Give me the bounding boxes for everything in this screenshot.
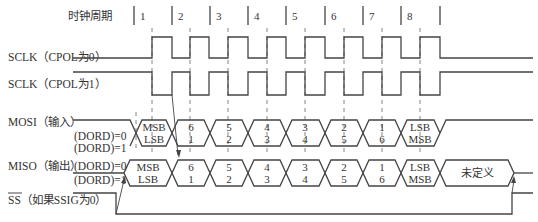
cycle-number: 3 — [216, 10, 222, 22]
mosi-cell-top: 4 — [264, 121, 270, 133]
miso-cell-top: 5 — [226, 161, 232, 173]
sclk-cpol0-label: SCLK（CPOL为0） — [8, 51, 106, 63]
spi-timing-diagram: 时钟周期 1 2 3 4 5 6 7 8 SCLK（CPOL为0） SCLK（C… — [0, 0, 538, 222]
mosi-cell-bottom: 6 — [379, 133, 385, 145]
mosi-cell-top: 3 — [302, 121, 308, 133]
cycle-markers: 1 2 3 4 5 6 7 8 — [134, 6, 440, 25]
cycle-number: 8 — [407, 10, 413, 22]
mosi-cell-bottom: 5 — [341, 133, 347, 145]
ss-waveform — [73, 193, 533, 214]
mosi-cell-bottom: 1 — [188, 133, 194, 145]
mosi-cell-bottom: 3 — [264, 133, 270, 145]
miso-cell-top: 4 — [264, 161, 270, 173]
miso-cell-bottom: 1 — [188, 173, 194, 185]
ss-condition-text: （如果SSIG为0） — [21, 193, 107, 206]
sclk-cpol1-label: SCLK（CPOL为1） — [8, 78, 106, 90]
mosi-cell-top: 5 — [226, 121, 232, 133]
ss-overbar-text: SS — [8, 194, 21, 206]
cycle-number: 4 — [254, 10, 260, 22]
mosi-cell-top: MSB — [142, 121, 165, 133]
arrow-head-icon — [176, 150, 181, 158]
mosi-cell-bottom: 2 — [226, 133, 232, 145]
miso-cell-bottom: 2 — [226, 173, 232, 185]
mosi-cell-top: 1 — [379, 121, 385, 133]
miso-cell-top: 1 — [379, 161, 385, 173]
miso-cell-top: MSB — [136, 161, 159, 173]
mosi-dord1-label: (DORD)=1 — [74, 142, 127, 155]
mosi-label: MOSI（输入） — [8, 115, 81, 128]
sclk-cpol1-waveform — [73, 72, 533, 95]
mosi-cell-top: LSB — [410, 121, 430, 133]
cycle-number: 6 — [331, 10, 337, 22]
sclk-cpol0-waveform — [73, 37, 533, 58]
miso-label: MISO（输出） — [8, 159, 81, 172]
miso-cell-bottom: 5 — [341, 173, 347, 185]
cycle-number: 1 — [140, 10, 146, 22]
cycle-number: 7 — [369, 10, 375, 22]
miso-dord0-label: (DORD)=0 — [74, 160, 127, 173]
miso-cell-top: 2 — [341, 161, 347, 173]
clock-cycle-label: 时钟周期 — [68, 9, 112, 23]
miso-cell-bottom: 4 — [302, 173, 308, 185]
miso-cell-top: 3 — [302, 161, 308, 173]
mosi-cell-top: 2 — [341, 121, 347, 133]
mosi-cells: MSB LSB 6 1 5 2 4 3 3 4 2 5 1 6 LSB MSB — [142, 121, 431, 145]
mosi-cell-bottom: MSB — [408, 133, 431, 145]
ss-label: SS（如果SSIG为0） — [8, 193, 106, 206]
cycle-number: 5 — [292, 10, 298, 22]
miso-cell-bottom: 6 — [379, 173, 385, 185]
miso-cell-top: 6 — [188, 161, 194, 173]
miso-undefined-cell: 未定义 — [461, 166, 494, 179]
edge-guides — [136, 28, 420, 155]
miso-dord1-label: (DORD)=1 — [74, 174, 127, 187]
cycle-number: 2 — [178, 10, 184, 22]
miso-cell-top: LSB — [410, 161, 430, 173]
miso-cell-bottom: LSB — [138, 173, 158, 185]
miso-cell-bottom: MSB — [408, 173, 431, 185]
mosi-cell-top: 6 — [188, 121, 194, 133]
mosi-cell-bottom: 4 — [302, 133, 308, 145]
miso-cell-bottom: 3 — [264, 173, 270, 185]
mosi-cell-bottom: LSB — [144, 133, 164, 145]
